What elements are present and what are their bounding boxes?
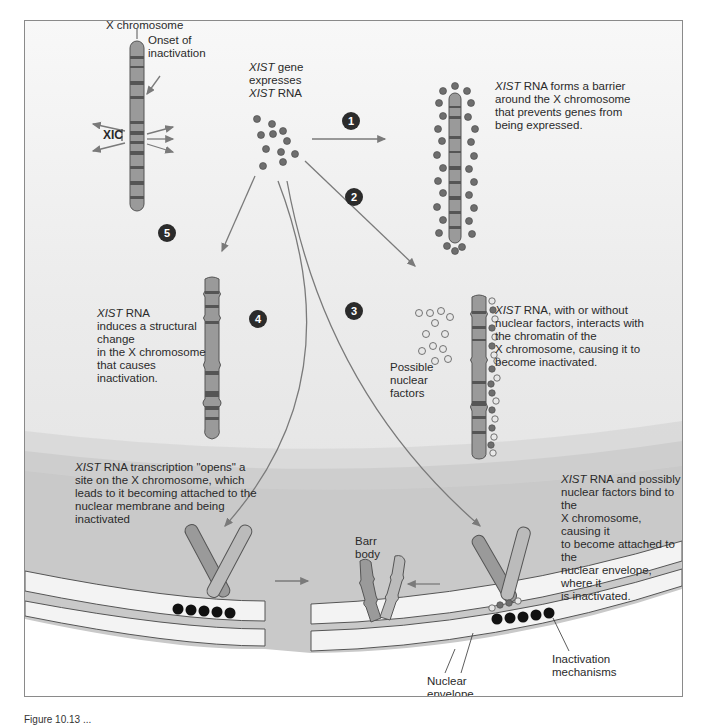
onset-label-line1: Onset of bbox=[148, 34, 191, 46]
line: being expressed. bbox=[495, 119, 583, 131]
xist-expression-label: XIST gene expresses XIST RNA bbox=[249, 61, 303, 100]
line: RNA transcription "opens" a bbox=[101, 461, 246, 473]
x-chromosome-top bbox=[130, 41, 144, 211]
possible-nuclear-factors-label: Possible nuclear factors bbox=[390, 361, 433, 400]
step-badge-4: 4 bbox=[249, 310, 267, 328]
step-3-description: XIST RNA and possibly nuclear factors bi… bbox=[561, 473, 682, 603]
line: Inactivation bbox=[552, 653, 610, 665]
line: RNA and possibly bbox=[587, 473, 681, 485]
step-badge-1: 1 bbox=[342, 112, 360, 130]
line: X chromosome, causing it bbox=[561, 512, 642, 537]
line: is inactivated. bbox=[561, 590, 631, 602]
barr-body-label: Barr body bbox=[355, 535, 380, 561]
xist-italic: XIST bbox=[75, 461, 101, 473]
line: factors bbox=[390, 387, 425, 399]
nuclear-envelope-label: Nuclear envelope bbox=[427, 675, 474, 697]
line: site on the X chromosome, which bbox=[75, 474, 244, 486]
line: the chromatin of the bbox=[495, 330, 597, 342]
xist-italic: XIST bbox=[97, 307, 123, 319]
line: body bbox=[355, 548, 380, 560]
onset-label-line2: inactivation bbox=[148, 47, 206, 59]
line: in the X chromosome bbox=[97, 346, 206, 358]
step-badge-5: 5 bbox=[158, 224, 176, 242]
step-2-description: XIST RNA, with or without nuclear factor… bbox=[495, 304, 644, 369]
line: RNA forms a barrier bbox=[521, 80, 626, 92]
line: leads to it becoming attached to the bbox=[75, 487, 257, 499]
line: nuclear factors, interacts with bbox=[495, 317, 644, 329]
line: mechanisms bbox=[552, 666, 617, 678]
line: envelope bbox=[427, 688, 474, 697]
line: Nuclear bbox=[427, 675, 467, 687]
onset-label: Onset of inactivation bbox=[148, 34, 206, 60]
line: around the X chromosome bbox=[495, 93, 631, 105]
line: inactivation. bbox=[97, 372, 158, 384]
x-chromosome-label: X chromosome bbox=[106, 20, 183, 32]
step-badge-2: 2 bbox=[345, 188, 363, 206]
line: nuclear membrane and being bbox=[75, 500, 225, 512]
line: inactivated bbox=[75, 513, 130, 525]
step-badge-3: 3 bbox=[345, 302, 363, 320]
line: become inactivated. bbox=[495, 356, 597, 368]
line: nuclear envelope, where it bbox=[561, 564, 652, 589]
x-chromosome-coated bbox=[434, 83, 479, 255]
line: nuclear bbox=[390, 374, 428, 386]
line: nuclear factors bind to the bbox=[561, 486, 674, 511]
line: RNA, with or without bbox=[521, 304, 628, 316]
line: change bbox=[97, 333, 135, 345]
line: Possible bbox=[390, 361, 433, 373]
step-1-description: XIST RNA forms a barrier around the X ch… bbox=[495, 80, 631, 132]
line: that causes bbox=[97, 359, 156, 371]
line: induces a structural bbox=[97, 320, 197, 332]
step-4-description: XIST RNA transcription "opens" a site on… bbox=[75, 461, 257, 526]
xist-italic: XIST bbox=[495, 304, 521, 316]
nuclear-factors bbox=[416, 308, 454, 365]
xist-italic: XIST bbox=[495, 80, 521, 92]
xic-label: XIC bbox=[103, 129, 123, 142]
xist-italic: XIST bbox=[249, 87, 275, 99]
inactivation-mechanisms-label: Inactivation mechanisms bbox=[552, 653, 617, 679]
label-text: gene bbox=[275, 61, 304, 73]
line: X chromosome, causing it to bbox=[495, 343, 640, 355]
line: Barr bbox=[355, 535, 377, 547]
line: RNA bbox=[123, 307, 150, 319]
figure-frame: X chromosome Onset of inactivation XIC X… bbox=[24, 20, 683, 697]
xist-italic: XIST bbox=[249, 61, 275, 73]
figure-caption: Figure 10.13 ... bbox=[24, 714, 91, 725]
line: that prevents genes from bbox=[495, 106, 622, 118]
xist-italic: XIST bbox=[561, 473, 587, 485]
line: to become attached to the bbox=[561, 538, 675, 563]
x-chromosome-structural bbox=[203, 277, 221, 439]
step-5-description: XIST RNA induces a structural change in … bbox=[97, 307, 206, 385]
label-text: expresses bbox=[249, 74, 301, 86]
label-text: RNA bbox=[275, 87, 302, 99]
